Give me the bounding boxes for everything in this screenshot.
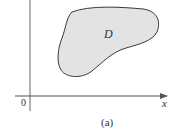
diagram-canvas (0, 0, 175, 139)
region-label: D (104, 27, 113, 42)
figure-caption: (a) (101, 116, 113, 128)
origin-label: 0 (21, 97, 26, 108)
x-axis-label: x (162, 97, 167, 109)
